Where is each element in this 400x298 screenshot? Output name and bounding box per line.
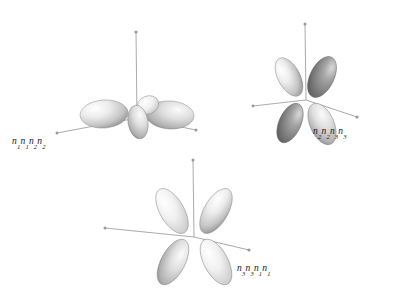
lobe-bottom-upper-left bbox=[149, 183, 195, 238]
label-cluster-top-right-part-1: n2 bbox=[321, 126, 329, 136]
axis-tip-right-bottom bbox=[247, 248, 250, 251]
label-cluster-bottom-part-1: n3 bbox=[245, 263, 253, 273]
orbital-diagram-svg bbox=[0, 0, 400, 298]
orbital-cluster-bottom bbox=[104, 159, 251, 290]
lobe-tr-upper-right bbox=[302, 52, 343, 102]
axis-tip-vertical-bottom bbox=[192, 159, 195, 162]
orbital-cluster-left bbox=[56, 30, 198, 140]
axis-group-top-right bbox=[253, 24, 357, 117]
lobe-tr-lower-left bbox=[271, 99, 308, 146]
label-cluster-left: n1n1n2n2 bbox=[12, 136, 46, 146]
label-cluster-top-right: n2n2n3n3 bbox=[313, 126, 347, 136]
figure-canvas: n1n1n2n2 n2n2n3n3 n3n3n1n1 bbox=[0, 0, 400, 298]
label-cluster-bottom-part-3: n1 bbox=[262, 263, 270, 273]
lobe-tr-upper-left bbox=[269, 53, 308, 100]
axis-tip-left-bottom bbox=[104, 227, 107, 230]
label-cluster-left-part-1: n1 bbox=[20, 136, 28, 146]
lobe-left-west bbox=[79, 98, 129, 129]
axis-tip-vertical-left bbox=[134, 30, 137, 33]
label-cluster-left-part-3: n2 bbox=[37, 136, 45, 146]
lobe-bottom-lower-left bbox=[151, 234, 196, 289]
axis-tip-left-top-right bbox=[252, 105, 255, 108]
axis-tip-left-left bbox=[56, 132, 59, 135]
axis-tip-vertical-top-right bbox=[304, 23, 307, 26]
axis-tip-right-left bbox=[195, 129, 198, 132]
axis-vertical-bottom bbox=[193, 160, 194, 237]
axis-tip-right-top-right bbox=[355, 115, 358, 118]
label-cluster-bottom: n3n3n1n1 bbox=[237, 263, 271, 273]
lobe-tr-lower-right bbox=[302, 99, 342, 149]
lobe-bottom-upper-right bbox=[193, 183, 239, 238]
label-cluster-top-right-part-3: n3 bbox=[338, 126, 346, 136]
axis-vertical-top-right bbox=[305, 24, 306, 100]
